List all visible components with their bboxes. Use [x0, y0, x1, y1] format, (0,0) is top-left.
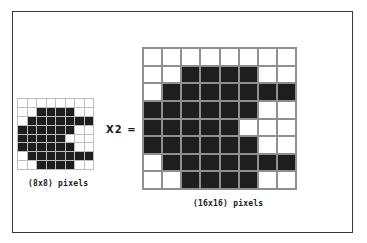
pixel-on [201, 102, 218, 118]
pixel-on [182, 172, 199, 188]
pixel-off [66, 135, 75, 143]
pixel-on [182, 137, 199, 153]
pixel-off [18, 152, 27, 160]
pixel-on [28, 143, 37, 151]
pixel-on [56, 117, 65, 125]
pixel-on [56, 143, 65, 151]
pixel-on [201, 67, 218, 83]
pixel-on [47, 135, 56, 143]
pixel-on [47, 143, 56, 151]
pixel-off [259, 102, 276, 118]
pixel-off [163, 67, 180, 83]
pixel-on [28, 135, 37, 143]
pixel-on [66, 161, 75, 169]
pixel-on [37, 108, 46, 116]
pixel-on [66, 143, 75, 151]
pixel-off [75, 99, 84, 107]
pixel-off [259, 120, 276, 136]
pixel-off [278, 67, 295, 83]
pixel-off [18, 117, 27, 125]
pixel-on [182, 155, 199, 171]
pixel-on [47, 161, 56, 169]
pixel-on [278, 84, 295, 100]
scale-operator-label: X2 = [106, 124, 137, 135]
pixel-on [240, 84, 257, 100]
pixel-on [85, 117, 94, 125]
pixel-on [163, 84, 180, 100]
small-pixel-grid [17, 98, 94, 170]
pixel-off [163, 172, 180, 188]
pixel-on [56, 126, 65, 134]
pixel-on [56, 152, 65, 160]
pixel-on [18, 143, 27, 151]
pixel-on [221, 120, 238, 136]
pixel-on [66, 152, 75, 160]
pixel-off [278, 172, 295, 188]
pixel-off [85, 135, 94, 143]
pixel-on [28, 152, 37, 160]
pixel-on [75, 117, 84, 125]
pixel-off [201, 49, 218, 65]
pixel-off [144, 172, 161, 188]
pixel-on [221, 67, 238, 83]
pixel-on [182, 102, 199, 118]
pixel-off [240, 49, 257, 65]
pixel-on [240, 102, 257, 118]
pixel-off [144, 49, 161, 65]
pixel-on [18, 135, 27, 143]
pixel-off [85, 143, 94, 151]
pixel-off [37, 99, 46, 107]
pixel-on [37, 117, 46, 125]
pixel-on [144, 102, 161, 118]
pixel-on [47, 126, 56, 134]
pixel-off [182, 49, 199, 65]
pixel-on [201, 172, 218, 188]
pixel-on [18, 126, 27, 134]
pixel-on [259, 155, 276, 171]
pixel-on [201, 155, 218, 171]
pixel-off [85, 108, 94, 116]
pixel-on [163, 137, 180, 153]
pixel-off [66, 99, 75, 107]
pixel-on [221, 155, 238, 171]
pixel-on [37, 126, 46, 134]
pixel-on [85, 152, 94, 160]
pixel-off [240, 120, 257, 136]
pixel-on [201, 120, 218, 136]
pixel-on [66, 108, 75, 116]
pixel-on [240, 172, 257, 188]
pixel-on [37, 135, 46, 143]
pixel-off [278, 137, 295, 153]
pixel-on [240, 155, 257, 171]
pixel-on [201, 137, 218, 153]
large-grid-label: (16x16) pixels [193, 199, 263, 208]
pixel-on [278, 155, 295, 171]
pixel-off [144, 155, 161, 171]
pixel-on [163, 120, 180, 136]
pixel-off [85, 99, 94, 107]
pixel-off [278, 49, 295, 65]
pixel-on [182, 84, 199, 100]
pixel-on [47, 152, 56, 160]
pixel-on [37, 152, 46, 160]
pixel-off [75, 161, 84, 169]
pixel-off [28, 161, 37, 169]
pixel-on [28, 117, 37, 125]
small-grid-label: (8x8) pixels [28, 179, 88, 188]
pixel-off [278, 120, 295, 136]
pixel-off [18, 161, 27, 169]
large-pixel-grid [142, 47, 297, 190]
pixel-off [85, 126, 94, 134]
pixel-on [221, 137, 238, 153]
pixel-on [66, 126, 75, 134]
pixel-off [259, 67, 276, 83]
pixel-on [56, 161, 65, 169]
pixel-on [144, 137, 161, 153]
pixel-on [240, 67, 257, 83]
pixel-on [259, 84, 276, 100]
pixel-off [259, 172, 276, 188]
pixel-on [75, 152, 84, 160]
pixel-off [144, 67, 161, 83]
pixel-on [37, 143, 46, 151]
pixel-off [28, 108, 37, 116]
